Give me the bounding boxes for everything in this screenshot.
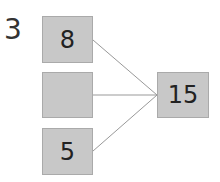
input-box-2[interactable] xyxy=(42,72,93,118)
problem-number: 3 xyxy=(4,16,22,44)
input-box-3[interactable]: 5 xyxy=(42,128,93,175)
input-box-1[interactable]: 8 xyxy=(42,16,93,63)
result-box: 15 xyxy=(157,72,209,118)
